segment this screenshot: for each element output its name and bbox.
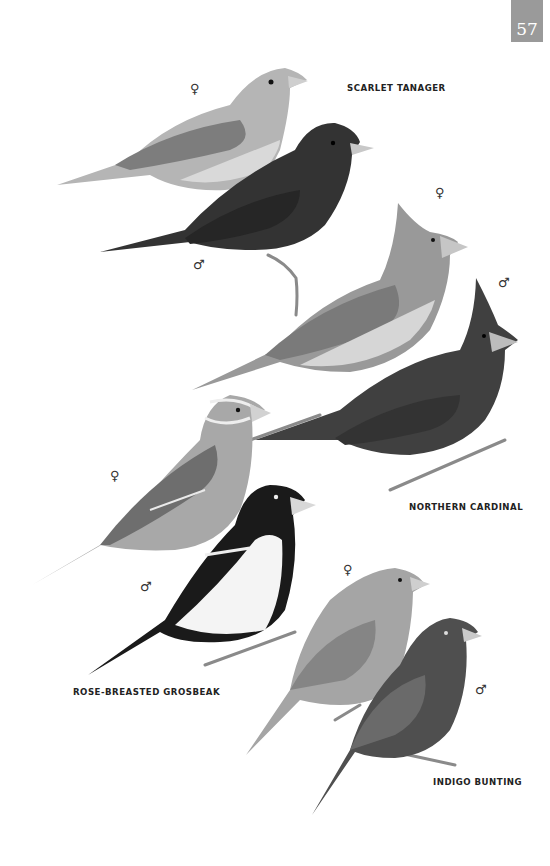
bird-plate-illustration [0,0,550,866]
female-symbol-icon: ♀ [190,82,200,95]
female-symbol-icon: ♀ [343,563,353,576]
species-label-northern-cardinal: NORTHERN CARDINAL [409,502,523,512]
male-symbol-icon: ♂ [475,683,487,696]
species-label-scarlet-tanager: SCARLET TANAGER [347,83,446,93]
male-symbol-icon: ♂ [498,276,510,289]
female-symbol-icon: ♀ [110,469,120,482]
species-label-rose-breasted-grosbeak: ROSE-BREASTED GROSBEAK [73,687,220,697]
male-symbol-icon: ♂ [193,258,205,271]
species-label-indigo-bunting: INDIGO BUNTING [433,777,522,787]
male-symbol-icon: ♂ [140,580,152,593]
female-symbol-icon: ♀ [435,186,445,199]
